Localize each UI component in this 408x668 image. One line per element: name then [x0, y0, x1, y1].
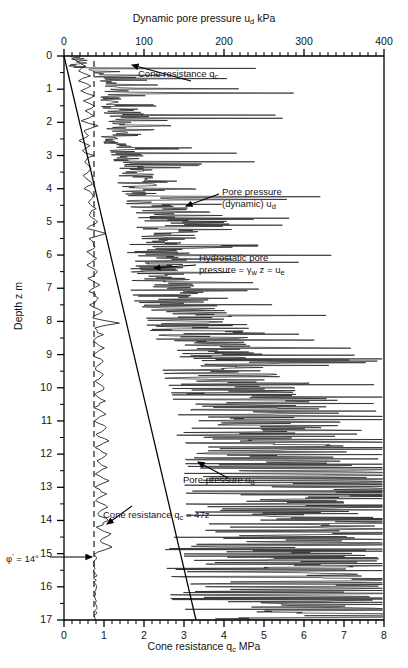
depth-tick-3: 3	[20, 149, 52, 161]
bottom-axis-tick-7: 7	[324, 629, 364, 641]
annotation-cone-resistance-47z: Cone resistance qc = 47z	[103, 509, 209, 523]
depth-tick-8: 8	[20, 314, 52, 326]
annotation-line-2: (dynamic) ud	[222, 198, 282, 212]
subscript-c: c	[215, 72, 219, 81]
subscript-e: e	[280, 267, 284, 276]
depth-tick-10: 10	[20, 381, 52, 393]
line-qc-47z	[64, 56, 196, 620]
depth-tick-11: 11	[20, 414, 52, 426]
cpt-chart	[0, 0, 408, 668]
depth-tick-0: 0	[20, 49, 52, 61]
bottom-axis-tick-5: 5	[244, 629, 284, 641]
top-axis-tick-200: 200	[204, 35, 244, 47]
top-axis-tick-0: 0	[44, 35, 84, 47]
subscript-d: d	[272, 201, 276, 210]
depth-tick-1: 1	[20, 82, 52, 94]
depth-tick-12: 12	[20, 447, 52, 459]
bottom-axis-tick-1: 1	[84, 629, 124, 641]
top-axis-tick-400: 400	[364, 35, 404, 47]
subscript-d: d	[251, 478, 255, 487]
bottom-axis-tick-3: 3	[164, 629, 204, 641]
bottom-axis-tick-8: 8	[364, 629, 404, 641]
bottom-axis-tick-6: 6	[284, 629, 324, 641]
bottom-axis-tick-2: 2	[124, 629, 164, 641]
depth-tick-5: 5	[20, 215, 52, 227]
annotation-line-1: Pore pressure	[222, 186, 282, 198]
annotation-line-1: Hydrostatic pore	[199, 252, 285, 264]
depth-tick-6: 6	[20, 248, 52, 260]
depth-tick-17: 17	[20, 613, 52, 625]
depth-tick-13: 13	[20, 480, 52, 492]
trace-cone-resistance	[71, 56, 119, 620]
annotation-phi-prime: φ' = 14°	[6, 551, 39, 565]
annotation-hydrostatic-pore-pressure: Hydrostatic pore pressure = γw z = ue	[199, 252, 285, 278]
annotation-line-2: pressure = γw z = ue	[199, 264, 285, 278]
annotation-pore-pressure-ud: Pore pressure ud	[183, 474, 255, 488]
annotation-pore-pressure-dynamic: Pore pressure (dynamic) ud	[222, 186, 282, 212]
depth-tick-14: 14	[20, 513, 52, 525]
data-traces-group	[64, 56, 382, 620]
trace-pore-pressure-dynamic	[69, 56, 383, 620]
top-axis-tick-100: 100	[124, 35, 164, 47]
bottom-axis-tick-0: 0	[44, 629, 84, 641]
bottom-axis-tick-4: 4	[204, 629, 244, 641]
annotation-cone-resistance-top: Cone resistance qc	[138, 68, 218, 82]
depth-tick-7: 7	[20, 281, 52, 293]
depth-tick-2: 2	[20, 115, 52, 127]
depth-tick-4: 4	[20, 182, 52, 194]
axes-group	[57, 49, 384, 627]
top-axis-tick-300: 300	[284, 35, 324, 47]
depth-tick-16: 16	[20, 580, 52, 592]
depth-tick-9: 9	[20, 348, 52, 360]
